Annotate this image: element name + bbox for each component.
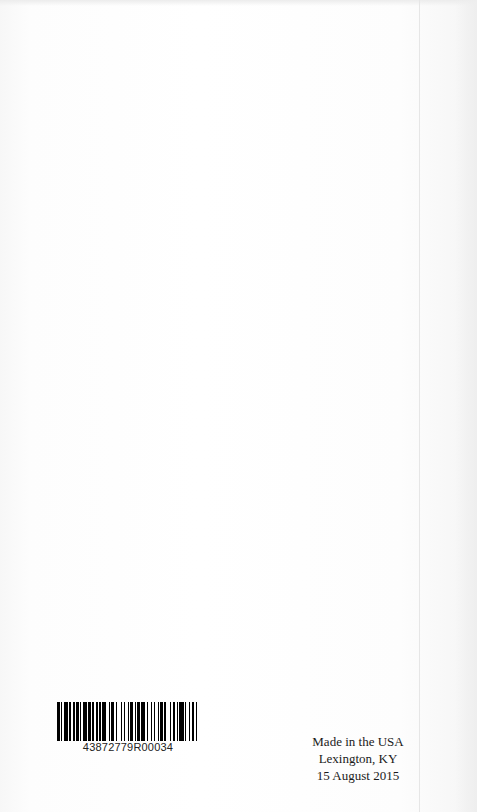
page-fold-line xyxy=(419,0,420,812)
imprint-date: 15 August 2015 xyxy=(298,767,418,784)
barcode xyxy=(57,702,199,741)
printing-imprint: Made in the USA Lexington, KY 15 August … xyxy=(298,733,418,784)
barcode-space xyxy=(197,702,198,741)
scan-top-edge xyxy=(0,0,477,6)
barcode-number: 43872779R00034 xyxy=(57,741,199,753)
book-page: 43872779R00034 Made in the USA Lexington… xyxy=(0,0,477,812)
page-edge-shadow xyxy=(455,0,477,812)
imprint-location: Lexington, KY xyxy=(298,750,418,767)
imprint-made-in: Made in the USA xyxy=(298,733,418,750)
